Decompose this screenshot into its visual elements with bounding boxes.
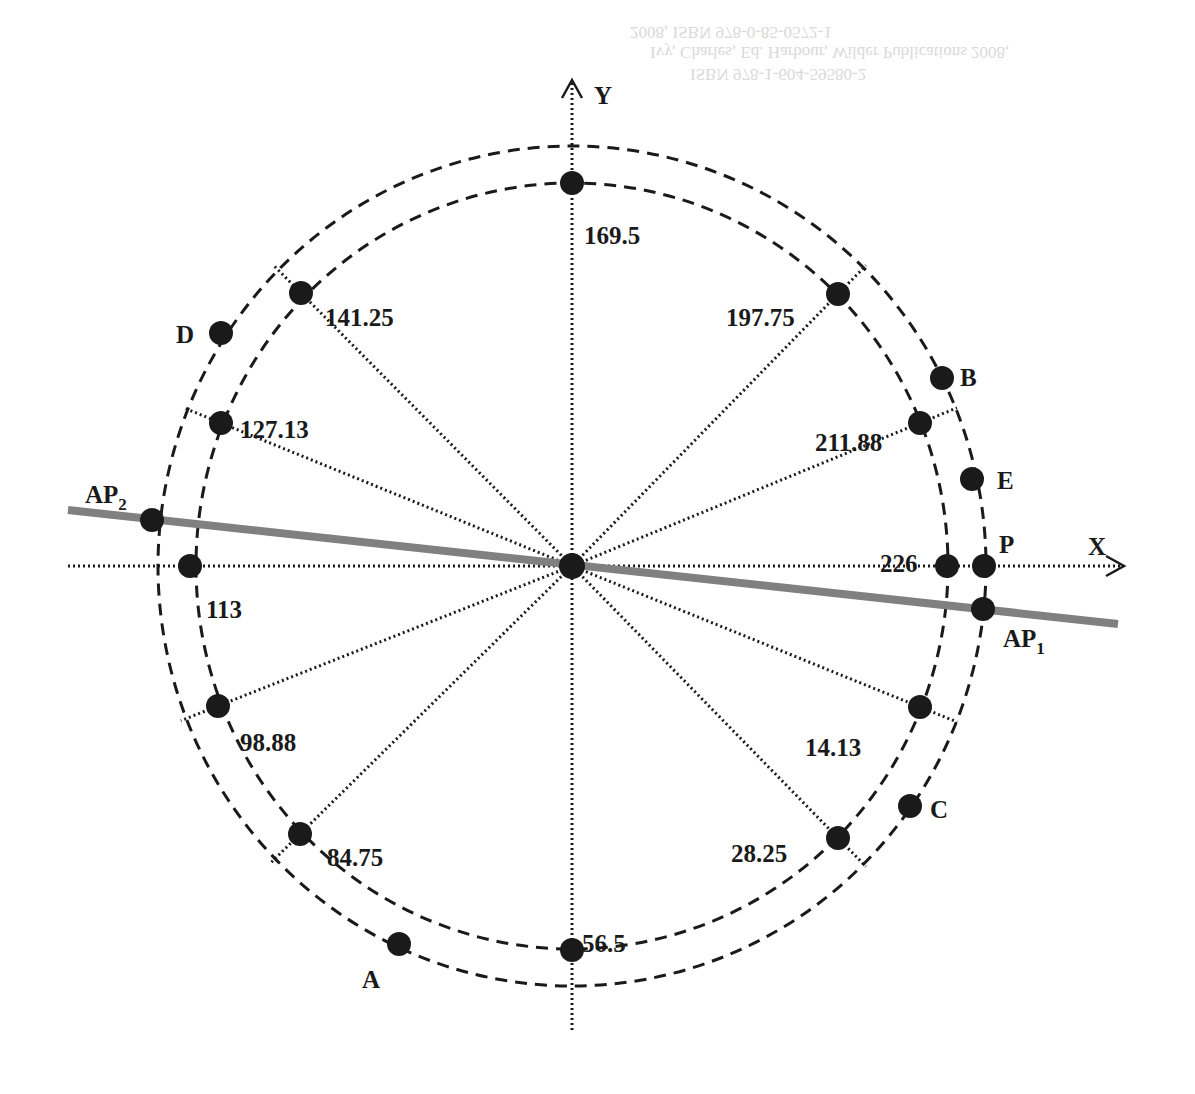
outer-point-label: P [999,531,1014,558]
radial-dotted-line [272,566,572,862]
radial-dotted-line [273,265,572,566]
inner-point-marker [560,171,584,195]
radial-dotted-line [572,408,957,566]
inner-point-label: 226 [880,550,918,577]
radial-dotted-line [181,566,572,721]
outer-point-label: C [930,796,948,823]
inner-point-label: 197.75 [726,304,795,331]
inner-point-marker [935,554,959,578]
inner-point-label: 211.88 [815,429,882,456]
x-axis-label: X [1088,533,1106,560]
inner-point-marker [209,411,233,435]
bleed-through-text-1: 2008, ISBN 978-0-85-0572-1 [630,22,832,42]
inner-point-label: 84.75 [327,844,383,871]
y-axis-label: Y [594,82,612,109]
outer-point-marker [898,794,922,818]
outer-point-marker [960,467,984,491]
radial-dotted-line [572,566,866,867]
inner-point-marker [560,938,584,962]
outer-point-label: A [362,966,380,993]
figure-canvas: 2008, ISBN 978-0-85-0572-1 Ivy, Charles,… [0,0,1195,1094]
inner-point-marker [826,282,850,306]
bleed-through-text-3: ISBN 978-1-604-59580-2 [690,64,866,84]
inner-point-label: 14.13 [805,734,861,761]
inner-point-label: 141.25 [325,304,394,331]
inner-point-label: 28.25 [731,840,787,867]
outer-point-marker [387,932,411,956]
outer-point-label: D [176,321,194,348]
inner-point-label: 56.5 [582,930,626,957]
inner-point-label: 113 [206,596,242,623]
inner-point-marker [908,411,932,435]
inner-point-marker [206,694,230,718]
radial-dotted-line [572,265,866,566]
outer-point-label: B [960,364,977,391]
inner-point-label: 169.5 [584,222,640,249]
inner-point-marker [289,281,313,305]
center-point [559,553,585,579]
outer-point-label: E [997,467,1014,494]
inner-point-marker [908,695,932,719]
inner-point-marker [178,554,202,578]
inner-point-label: 98.88 [240,729,296,756]
outer-point-marker [209,321,233,345]
inner-point-marker [288,822,312,846]
outer-point-marker [930,366,954,390]
geodetic-circle-diagram: X Y 226211.88197.75169.5141.25127.131139… [0,0,1195,1094]
outer-point-marker [972,554,996,578]
outer-point-label: AP1 [1003,625,1045,658]
bleed-through-text-2: Ivy, Charles, Ed. Harbour, Wilder Public… [650,42,1009,62]
inner-point-label: 127.13 [240,416,309,443]
outer-point-marker [140,508,164,532]
outer-point-marker [971,597,995,621]
inner-point-marker [826,826,850,850]
